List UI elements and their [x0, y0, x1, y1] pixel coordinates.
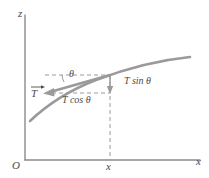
figure-container: z O x x θ T T sin θ T cos θ: [0, 0, 209, 178]
tension-vector-letter: T: [31, 87, 37, 99]
x-axis-label: x: [196, 156, 201, 167]
z-axis-label: z: [18, 8, 22, 19]
vertical-component-label: T sin θ: [124, 76, 151, 86]
vector-notation: T: [31, 88, 37, 99]
theta-angle-label: θ: [69, 69, 74, 79]
origin-label: O: [12, 160, 20, 171]
tension-vector-label: T: [31, 88, 37, 99]
theta-angle-arc: [62, 75, 64, 82]
vertical-component-arrow: [107, 75, 113, 94]
x-tick-label: x: [106, 161, 111, 172]
horizontal-component-label: T cos θ: [62, 95, 91, 105]
